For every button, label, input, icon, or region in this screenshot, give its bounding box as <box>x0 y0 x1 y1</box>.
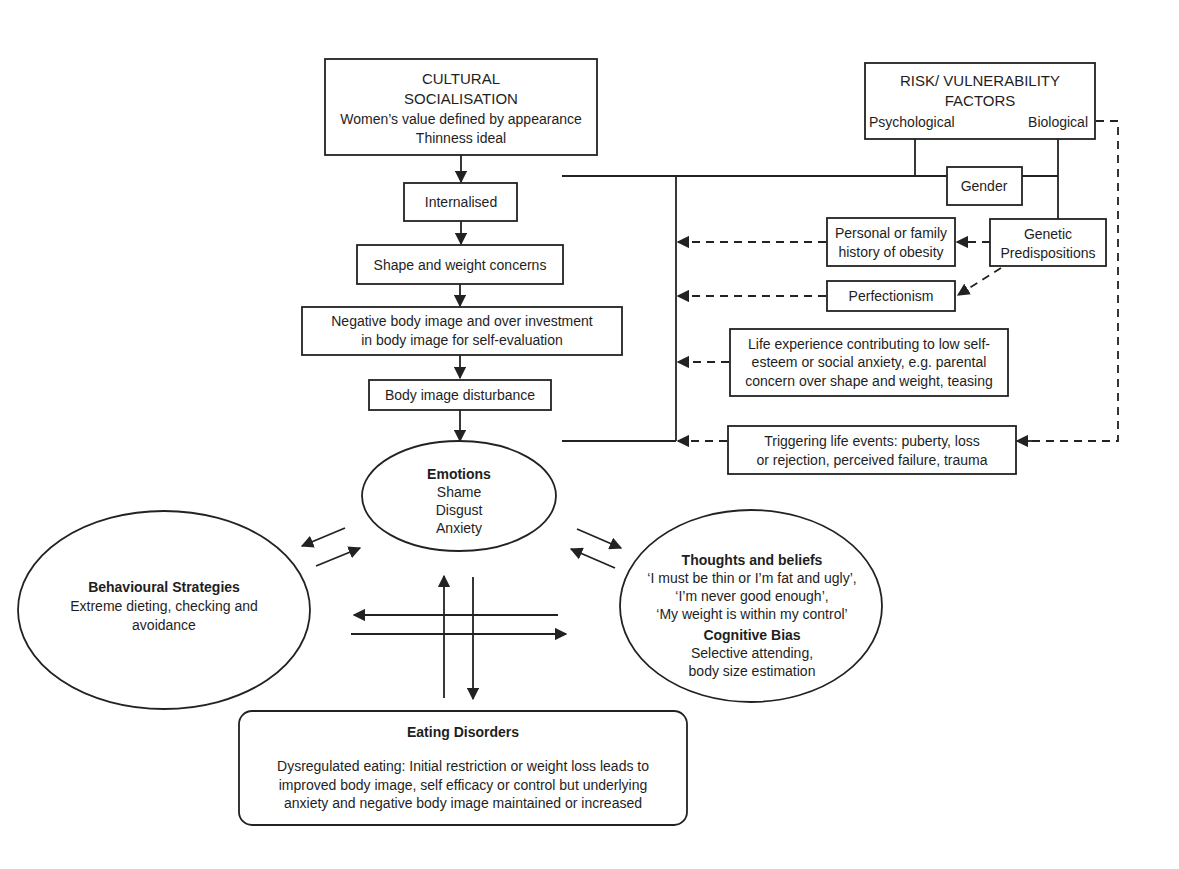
behavioural-title: Behavioural Strategies <box>88 579 240 595</box>
internalised-label: Internalised <box>425 194 497 210</box>
arrow-emotions-to-behavioural <box>302 528 345 546</box>
cultural-socialisation-box: CULTURAL SOCIALISATION Women’s value def… <box>325 59 597 155</box>
cultural-women-value: Women’s value defined by appearance <box>340 111 582 127</box>
trigger-line1: Triggering life events: puberty, loss <box>764 433 980 449</box>
eating-disorders-title: Eating Disorders <box>407 724 519 740</box>
obesity-history-box: Personal or family history of obesity <box>827 218 955 266</box>
trigger-line2: or rejection, perceived failure, trauma <box>756 452 987 468</box>
cultural-title-line1: CULTURAL <box>422 70 500 87</box>
emotions-title: Emotions <box>427 466 491 482</box>
eating-disorders-box: Eating Disorders Dysregulated eating: In… <box>239 711 687 825</box>
arrow-thoughts-to-emotions <box>571 549 615 568</box>
arrow-genetic-to-perfectionism <box>958 268 1001 295</box>
gender-box: Gender <box>947 167 1022 205</box>
genetic-predispositions-box: Genetic Predispositions <box>990 219 1106 266</box>
genetic-line1: Genetic <box>1024 226 1072 242</box>
thoughts-title: Thoughts and beliefs <box>682 552 823 568</box>
thoughts-line1: ‘I must be thin or I’m fat and ugly’, <box>647 570 856 586</box>
cognitive-bias-line1: Selective attending, <box>691 645 813 661</box>
cognitive-bias-line2: body size estimation <box>689 663 816 679</box>
cultural-thinness-ideal: Thinness ideal <box>416 130 506 146</box>
internalised-box: Internalised <box>404 183 517 221</box>
body-image-disturbance-box: Body image disturbance <box>369 380 551 410</box>
emotion-anxiety: Anxiety <box>436 520 482 536</box>
obesity-line2: history of obesity <box>838 244 943 260</box>
emotions-ellipse: Emotions Shame Disgust Anxiety <box>362 441 556 551</box>
thoughts-line3: ‘My weight is within my control’ <box>656 606 847 622</box>
shape-weight-label: Shape and weight concerns <box>374 257 547 273</box>
life-experience-line3: concern over shape and weight, teasing <box>745 373 993 389</box>
behavioural-line2: avoidance <box>132 617 196 633</box>
cultural-title-line2: SOCIALISATION <box>404 90 518 107</box>
life-experience-box: Life experience contributing to low self… <box>730 329 1008 396</box>
risk-biological-label: Biological <box>1028 114 1088 130</box>
risk-title-line1: RISK/ VULNERABILITY <box>900 72 1060 89</box>
dashed-biological-to-trigger-path <box>1030 121 1118 441</box>
genetic-line2: Predispositions <box>1001 245 1096 261</box>
obesity-line1: Personal or family <box>835 225 947 241</box>
behavioural-line1: Extreme dieting, checking and <box>70 598 258 614</box>
negative-body-image-line2: in body image for self-evaluation <box>361 332 563 348</box>
negative-body-image-line1: Negative body image and over investment <box>331 313 593 329</box>
shape-weight-concerns-box: Shape and weight concerns <box>357 245 563 284</box>
arrow-emotions-to-thoughts <box>577 529 621 548</box>
negative-body-image-box: Negative body image and over investment … <box>302 307 622 355</box>
gender-label: Gender <box>961 178 1008 194</box>
risk-vulnerability-box: RISK/ VULNERABILITY FACTORS Psychologica… <box>865 63 1095 139</box>
risk-title-line2: FACTORS <box>945 92 1016 109</box>
emotion-shame: Shame <box>437 484 482 500</box>
arrow-behavioural-to-emotions <box>316 548 360 566</box>
behavioural-strategies-ellipse: Behavioural Strategies Extreme dieting, … <box>18 511 310 709</box>
cognitive-bias-title: Cognitive Bias <box>703 627 800 643</box>
life-experience-line2: esteem or social anxiety, e.g. parental <box>752 354 987 370</box>
disturbance-label: Body image disturbance <box>385 387 535 403</box>
eating-disorders-line3: anxiety and negative body image maintain… <box>284 795 642 811</box>
perfectionism-label: Perfectionism <box>849 288 934 304</box>
thoughts-line2: ‘I’m never good enough’, <box>675 588 828 604</box>
risk-psychological-label: Psychological <box>869 114 955 130</box>
triggering-events-box: Triggering life events: puberty, loss or… <box>728 426 1016 474</box>
life-experience-line1: Life experience contributing to low self… <box>748 336 990 352</box>
eating-disorders-line1: Dysregulated eating: Initial restriction… <box>277 758 649 774</box>
perfectionism-box: Perfectionism <box>827 281 955 311</box>
thoughts-beliefs-ellipse: Thoughts and beliefs ‘I must be thin or … <box>620 510 882 702</box>
emotion-disgust: Disgust <box>436 502 483 518</box>
eating-disorder-model-diagram: CULTURAL SOCIALISATION Women’s value def… <box>0 0 1179 869</box>
eating-disorders-line2: improved body image, self efficacy or co… <box>279 777 648 793</box>
